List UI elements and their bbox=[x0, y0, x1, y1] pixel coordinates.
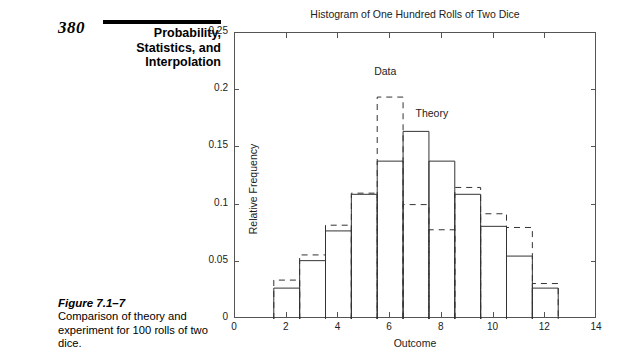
theory-bar bbox=[507, 256, 533, 319]
data-bar bbox=[300, 255, 326, 319]
theory-bar bbox=[274, 288, 300, 319]
x-tick-label: 14 bbox=[581, 321, 611, 332]
theory-bar bbox=[455, 194, 481, 319]
y-tick-label: 0.2 bbox=[188, 82, 228, 93]
series-label-theory: Theory bbox=[416, 107, 449, 119]
theory-bar bbox=[326, 231, 352, 319]
plot-inner bbox=[235, 33, 595, 317]
theory-bar bbox=[377, 161, 403, 319]
data-bar bbox=[532, 284, 558, 319]
y-tick-label: 0.05 bbox=[188, 254, 228, 265]
data-bar bbox=[351, 193, 377, 319]
textbook-page: 380 Probability, Statistics, and Interpo… bbox=[0, 0, 626, 360]
data-bar bbox=[326, 225, 352, 319]
x-tick-label: 10 bbox=[478, 321, 508, 332]
x-axis-label: Outcome bbox=[234, 337, 596, 349]
plot-area: Relative Frequency bbox=[234, 32, 596, 318]
x-tick-label: 0 bbox=[219, 321, 249, 332]
theory-bar bbox=[481, 226, 507, 319]
x-tick-label: 6 bbox=[374, 321, 404, 332]
data-bar bbox=[429, 230, 455, 319]
data-bar bbox=[274, 280, 300, 319]
theory-bar bbox=[300, 261, 326, 319]
y-tick-label: 0.25 bbox=[188, 25, 228, 36]
data-bar bbox=[455, 187, 481, 319]
theory-bar bbox=[429, 161, 455, 319]
data-bar bbox=[507, 227, 533, 319]
chart-title: Histogram of One Hundred Rolls of Two Di… bbox=[234, 8, 596, 20]
data-bar bbox=[403, 205, 429, 319]
data-bar bbox=[377, 97, 403, 319]
theory-bar bbox=[351, 194, 377, 319]
histogram-chart: Histogram of One Hundred Rolls of Two Di… bbox=[0, 0, 626, 360]
data-bar bbox=[481, 214, 507, 319]
theory-bar bbox=[532, 288, 558, 319]
y-tick-label: 0.1 bbox=[188, 197, 228, 208]
x-tick-label: 8 bbox=[426, 321, 456, 332]
series-label-data: Data bbox=[374, 65, 396, 77]
x-tick-label: 2 bbox=[271, 321, 301, 332]
bar-series-group bbox=[235, 33, 595, 317]
x-tick-label: 12 bbox=[529, 321, 559, 332]
y-tick-label: 0.15 bbox=[188, 139, 228, 150]
x-tick-label: 4 bbox=[322, 321, 352, 332]
theory-bar bbox=[403, 131, 429, 319]
